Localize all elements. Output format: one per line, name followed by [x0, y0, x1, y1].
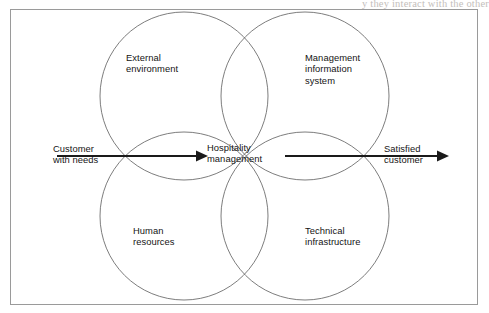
label-external-environment: External environment [126, 52, 178, 75]
label-hospitality-management: Hospitality management [207, 142, 262, 165]
label-technical-infrastructure: Technical infrastructure [305, 225, 360, 248]
label-management-information-system: Management information system [305, 52, 360, 86]
label-human-resources: Human resources [133, 225, 175, 248]
label-customer-with-needs: Customer with needs [53, 143, 98, 166]
label-satisfied-customer: Satisfied customer [384, 143, 423, 166]
figure-page: y they interact with the other External … [0, 0, 489, 313]
